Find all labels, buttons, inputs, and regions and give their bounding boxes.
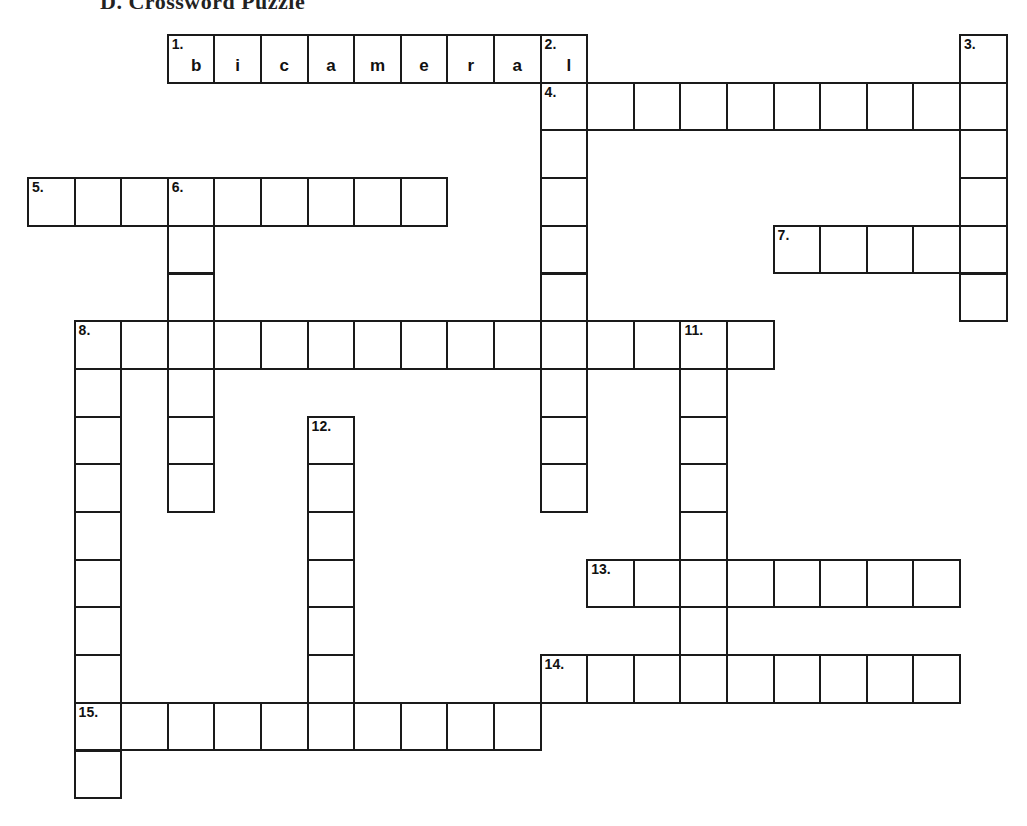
crossword-cell[interactable] xyxy=(773,82,822,132)
crossword-cell[interactable]: 4. xyxy=(540,82,589,132)
crossword-cell[interactable] xyxy=(679,463,728,513)
crossword-cell[interactable] xyxy=(726,320,775,370)
crossword-cell[interactable] xyxy=(866,225,915,275)
crossword-cell[interactable]: r xyxy=(446,34,495,84)
crossword-cell[interactable] xyxy=(959,225,1008,275)
crossword-cell[interactable] xyxy=(167,416,216,466)
crossword-cell[interactable] xyxy=(912,654,961,704)
crossword-cell[interactable] xyxy=(353,177,402,227)
crossword-cell[interactable] xyxy=(120,702,169,752)
crossword-cell[interactable] xyxy=(167,463,216,513)
crossword-cell[interactable] xyxy=(959,273,1008,323)
crossword-cell[interactable] xyxy=(307,654,356,704)
crossword-cell[interactable]: i xyxy=(213,34,262,84)
crossword-cell[interactable] xyxy=(959,177,1008,227)
crossword-cell[interactable] xyxy=(446,320,495,370)
crossword-cell[interactable]: a xyxy=(307,34,356,84)
crossword-cell[interactable] xyxy=(74,368,123,418)
crossword-cell[interactable] xyxy=(540,368,589,418)
crossword-cell[interactable] xyxy=(679,606,728,656)
crossword-cell[interactable] xyxy=(679,511,728,561)
crossword-cell[interactable] xyxy=(74,559,123,609)
crossword-cell[interactable] xyxy=(493,702,542,752)
crossword-cell[interactable]: 11. xyxy=(679,320,728,370)
crossword-cell[interactable] xyxy=(633,559,682,609)
crossword-cell[interactable] xyxy=(586,654,635,704)
crossword-cell[interactable] xyxy=(120,320,169,370)
crossword-cell[interactable] xyxy=(540,463,589,513)
crossword-cell[interactable] xyxy=(586,82,635,132)
crossword-cell[interactable] xyxy=(959,129,1008,179)
crossword-cell[interactable] xyxy=(540,177,589,227)
crossword-cell[interactable] xyxy=(679,82,728,132)
crossword-cell[interactable] xyxy=(307,559,356,609)
crossword-cell[interactable] xyxy=(493,320,542,370)
crossword-cell[interactable] xyxy=(633,82,682,132)
crossword-cell[interactable] xyxy=(540,320,589,370)
crossword-cell[interactable]: a xyxy=(493,34,542,84)
crossword-cell[interactable] xyxy=(540,273,589,323)
crossword-cell[interactable] xyxy=(307,702,356,752)
crossword-cell[interactable] xyxy=(866,82,915,132)
crossword-cell[interactable] xyxy=(400,702,449,752)
crossword-cell[interactable] xyxy=(400,177,449,227)
crossword-cell[interactable] xyxy=(912,82,961,132)
crossword-cell[interactable] xyxy=(540,129,589,179)
crossword-cell[interactable] xyxy=(540,225,589,275)
crossword-cell[interactable] xyxy=(74,606,123,656)
crossword-cell[interactable] xyxy=(726,82,775,132)
crossword-cell[interactable] xyxy=(586,320,635,370)
crossword-cell[interactable]: 15. xyxy=(74,702,123,752)
crossword-cell[interactable] xyxy=(912,559,961,609)
crossword-cell[interactable] xyxy=(353,702,402,752)
crossword-cell[interactable] xyxy=(74,463,123,513)
crossword-cell[interactable]: 3. xyxy=(959,34,1008,84)
crossword-cell[interactable] xyxy=(307,177,356,227)
crossword-cell[interactable] xyxy=(633,654,682,704)
crossword-cell[interactable] xyxy=(74,177,123,227)
crossword-cell[interactable] xyxy=(74,750,123,800)
crossword-cell[interactable] xyxy=(167,273,216,323)
crossword-cell[interactable]: 12. xyxy=(307,416,356,466)
crossword-cell[interactable] xyxy=(167,368,216,418)
crossword-cell[interactable] xyxy=(679,368,728,418)
crossword-cell[interactable]: 1.b xyxy=(167,34,216,84)
crossword-cell[interactable] xyxy=(353,320,402,370)
crossword-cell[interactable] xyxy=(773,654,822,704)
crossword-cell[interactable] xyxy=(307,463,356,513)
crossword-cell[interactable] xyxy=(819,654,868,704)
crossword-cell[interactable] xyxy=(679,654,728,704)
crossword-cell[interactable]: m xyxy=(353,34,402,84)
crossword-cell[interactable] xyxy=(213,177,262,227)
crossword-cell[interactable] xyxy=(679,559,728,609)
crossword-cell[interactable] xyxy=(74,416,123,466)
crossword-cell[interactable] xyxy=(307,320,356,370)
crossword-cell[interactable] xyxy=(819,225,868,275)
crossword-cell[interactable] xyxy=(74,654,123,704)
crossword-cell[interactable]: 7. xyxy=(773,225,822,275)
crossword-cell[interactable] xyxy=(260,320,309,370)
crossword-cell[interactable] xyxy=(260,702,309,752)
crossword-cell[interactable] xyxy=(400,320,449,370)
crossword-cell[interactable] xyxy=(307,606,356,656)
crossword-cell[interactable] xyxy=(959,82,1008,132)
crossword-cell[interactable] xyxy=(446,702,495,752)
crossword-cell[interactable] xyxy=(726,654,775,704)
crossword-cell[interactable]: e xyxy=(400,34,449,84)
crossword-cell[interactable] xyxy=(540,416,589,466)
crossword-cell[interactable] xyxy=(866,654,915,704)
crossword-cell[interactable] xyxy=(866,559,915,609)
crossword-cell[interactable] xyxy=(167,225,216,275)
crossword-cell[interactable] xyxy=(679,416,728,466)
crossword-cell[interactable]: 2.l xyxy=(540,34,589,84)
crossword-cell[interactable] xyxy=(819,82,868,132)
crossword-cell[interactable]: c xyxy=(260,34,309,84)
crossword-cell[interactable] xyxy=(726,559,775,609)
crossword-cell[interactable] xyxy=(307,511,356,561)
crossword-cell[interactable] xyxy=(633,320,682,370)
crossword-cell[interactable]: 6. xyxy=(167,177,216,227)
crossword-cell[interactable] xyxy=(912,225,961,275)
crossword-cell[interactable] xyxy=(120,177,169,227)
crossword-cell[interactable]: 13. xyxy=(586,559,635,609)
crossword-cell[interactable] xyxy=(74,511,123,561)
